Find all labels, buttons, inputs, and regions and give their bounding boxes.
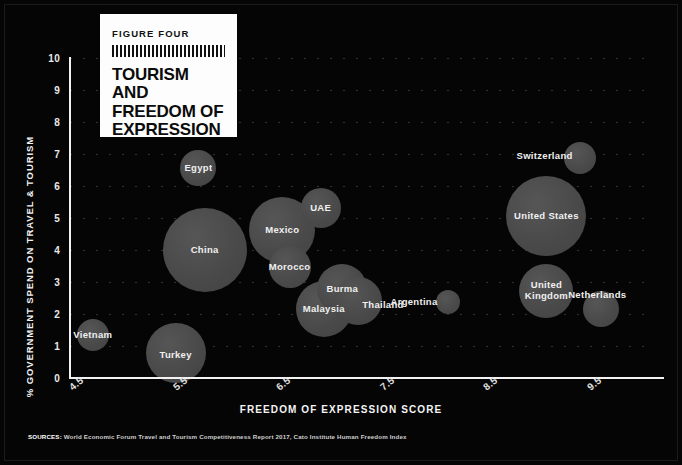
bubble-argentina[interactable] (436, 290, 460, 314)
figure-kicker: FIGURE FOUR (112, 28, 225, 39)
figure-title-line-3: EXPRESSION (112, 121, 225, 139)
bubble-label-argentina: Argentina (391, 296, 438, 307)
y-tick-label: 9 (54, 85, 60, 96)
figure-title-line-1: TOURISM AND (112, 66, 225, 103)
y-tick-label: 1 (54, 341, 60, 352)
bubble-label-morocco: Morocco (269, 261, 311, 272)
bubble-label-vietnam: Vietnam (73, 329, 112, 340)
bubble-label-united-states: United States (514, 211, 579, 222)
sources-text: World Economic Forum Travel and Tourism … (62, 433, 407, 440)
y-tick-label: 2 (54, 309, 60, 320)
y-axis-line (69, 57, 71, 379)
y-tick-label: 0 (54, 373, 60, 384)
bubble-label-turkey: Turkey (160, 350, 192, 361)
figure-title-line-2: FREEDOM OF (112, 103, 225, 121)
y-tick-label: 5 (54, 213, 60, 224)
y-tick-label: 4 (54, 245, 60, 256)
bubble-label-netherlands: Netherlands (568, 290, 626, 301)
bubble-label-switzerland: Switzerland (517, 150, 573, 161)
x-axis-label: FREEDOM OF EXPRESSION SCORE (0, 404, 682, 415)
figure-root: VietnamTurkeyEgyptChinaMexicoMoroccoUAEM… (0, 0, 682, 465)
bubble-label-uae: UAE (310, 203, 331, 214)
y-tick-label: 10 (48, 53, 60, 64)
bubble-label-egypt: Egypt (184, 163, 212, 174)
y-tick-label: 3 (54, 277, 60, 288)
barcode-divider-icon (112, 45, 225, 57)
bubble-label-burma: Burma (327, 284, 359, 295)
y-tick-label: 6 (54, 181, 60, 192)
figure-title: TOURISM AND FREEDOM OF EXPRESSION (112, 66, 225, 139)
bubble-label-china: China (191, 245, 219, 256)
sources-note: SOURCES: World Economic Forum Travel and… (28, 433, 407, 440)
bubble-label-united-kingdom: UnitedKingdom (525, 280, 568, 302)
y-axis-label: % GOVERNMENT SPEND ON TRAVEL & TOURISM (24, 136, 35, 397)
y-tick-label: 8 (54, 117, 60, 128)
sources-label: SOURCES: (28, 433, 62, 440)
bubble-label-malaysia: Malaysia (303, 304, 345, 315)
title-card: FIGURE FOUR TOURISM AND FREEDOM OF EXPRE… (100, 14, 237, 137)
x-axis-line (69, 377, 664, 379)
bubble-label-mexico: Mexico (265, 225, 299, 236)
y-tick-label: 7 (54, 149, 60, 160)
